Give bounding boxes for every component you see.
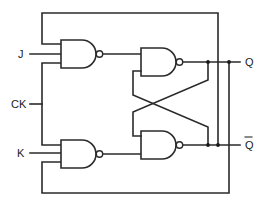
nand-gate-j — [61, 40, 103, 68]
nand-gate-q — [141, 48, 183, 76]
ck-label: CK — [11, 98, 27, 110]
bottom-feedback-wire — [42, 62, 229, 193]
top-feedback-wire — [42, 13, 218, 145]
q-bar-junction-dot — [206, 143, 210, 147]
q-feedback-junction-dot — [227, 60, 231, 64]
j-label: J — [18, 48, 24, 60]
k-label: K — [17, 147, 25, 159]
nand-gate-k — [61, 140, 103, 168]
svg-text:Q: Q — [245, 139, 254, 151]
q-label: Q — [245, 56, 254, 68]
ck-clock-wire — [30, 63, 61, 145]
jk-flip-flop-diagram: J K CK Q Q — [0, 0, 265, 201]
q-bar-feedback-junction-dot — [216, 143, 220, 147]
q-junction-dot — [206, 60, 210, 64]
nand-gate-q-bar — [141, 131, 183, 159]
q-bar-label: Q — [245, 137, 254, 151]
